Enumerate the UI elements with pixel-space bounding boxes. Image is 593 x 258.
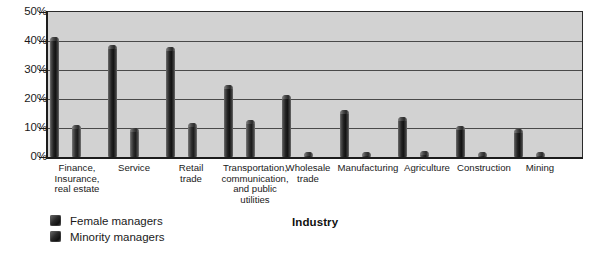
legend-swatch-icon [50,231,61,242]
bar-cap [514,129,523,133]
bars-layer [48,12,582,157]
bar-minority-service [130,128,139,157]
bar-female-manufacturing [340,110,349,157]
x-axis-category-labels: Finance, Insurance, real estate Service … [47,163,583,211]
bar-minority-transportation-communication-and-public-utilities [246,120,255,157]
y-axis: 50% 40% 30% 20% 10% 0% [0,0,47,170]
bar-cap [420,151,429,155]
bar-female-transportation-communication-and-public-utilities [224,85,233,157]
bar-cap [246,120,255,124]
bar-cap [304,152,313,156]
legend-label-female-managers: Female managers [70,215,163,227]
bar-female-agriculture [398,117,407,157]
bar-chart: 50% 40% 30% 20% 10% 0% [0,0,593,258]
bar-cap [224,85,233,89]
bar-cap [166,47,175,51]
y-axis-line [46,11,48,159]
plot-area [47,11,583,158]
bar-female-construction [456,126,465,157]
bar-cap [282,95,291,99]
bar-cap [478,152,487,156]
bar-cap [340,110,349,114]
bar-cap [456,126,465,130]
x-label-mining: Mining [509,163,571,174]
bar-female-mining [514,129,523,157]
legend-item-minority-managers: Minority managers [50,229,165,244]
bar-cap [188,123,197,127]
bar-cap [50,37,59,41]
bar-minority-retail-trade [188,123,197,157]
bar-cap [130,128,139,132]
bar-cap [108,45,117,49]
bar-cap [72,125,81,129]
bar-female-retail-trade [166,47,175,157]
bar-female-finance-insurance-real-estate [50,37,59,157]
bar-cap [362,152,371,156]
bar-female-wholesale-trade [282,95,291,157]
x-axis-line [46,157,583,159]
x-axis-title: Industry [292,216,338,228]
bar-cap [536,152,545,156]
legend: Female managers Minority managers [50,213,165,245]
legend-label-minority-managers: Minority managers [70,231,165,243]
bar-cap [398,117,407,121]
legend-swatch-icon [50,215,61,226]
legend-item-female-managers: Female managers [50,213,165,228]
bar-female-service [108,45,117,157]
bar-minority-finance-insurance-real-estate [72,125,81,157]
